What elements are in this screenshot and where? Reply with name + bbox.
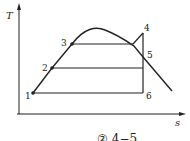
saturation-dome — [33, 28, 172, 93]
x-axis-arrow-icon — [179, 112, 186, 116]
point-2 — [50, 66, 54, 70]
y-axis-label: T — [6, 10, 14, 21]
point-label-6: 6 — [146, 91, 152, 101]
point-3 — [70, 42, 74, 46]
point-label-3: 3 — [61, 38, 67, 48]
ts-diagram: T s 1 2 3 4 5 6 ② 4−5 — [0, 0, 190, 141]
x-axis-label: s — [175, 117, 180, 128]
point-label-5: 5 — [147, 50, 153, 60]
y-axis-arrow-icon — [17, 3, 21, 10]
line-superheat-4 — [133, 33, 143, 44]
point-label-2: 2 — [42, 63, 48, 73]
point-label-4: 4 — [144, 23, 150, 33]
point-1 — [31, 91, 35, 95]
point-label-1: 1 — [25, 91, 31, 101]
caption: ② 4−5 — [97, 132, 137, 141]
diagram-canvas: T s 1 2 3 4 5 6 ② 4−5 — [0, 0, 190, 141]
